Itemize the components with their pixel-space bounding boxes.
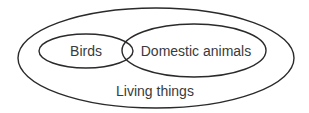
domestic-animals-label: Domestic animals (141, 43, 251, 59)
birds-label: Birds (70, 43, 102, 59)
living-things-label: Living things (116, 83, 194, 99)
venn-diagram: Birds Domestic animals Living things (0, 0, 309, 113)
